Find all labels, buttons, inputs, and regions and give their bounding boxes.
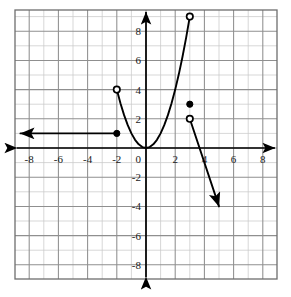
closed-point-constant-ray: [114, 130, 120, 136]
y-tick-label: 8: [136, 25, 142, 37]
y-tick-label: 6: [136, 54, 142, 66]
x-tick-label: -6: [54, 153, 64, 165]
open-point-left-branch: [114, 86, 120, 92]
x-tick-label: -4: [83, 153, 93, 165]
y-tick-label: -2: [132, 171, 141, 183]
x-tick-label: -2: [112, 153, 121, 165]
y-tick-label: 2: [136, 113, 142, 125]
x-tick-label: 2: [172, 153, 178, 165]
graph-screenshot: -8-6-4-2024688642-2-4-6-8: [0, 0, 291, 297]
x-tick-label: 6: [231, 153, 237, 165]
x-tick-label: 8: [260, 153, 266, 165]
origin-label: 0: [136, 153, 142, 165]
closed-point-isolated: [187, 101, 193, 107]
y-tick-label: -6: [132, 230, 142, 242]
open-point-parabola-top: [187, 13, 193, 19]
open-point-ray-start: [187, 116, 193, 122]
y-tick-label: -8: [132, 259, 142, 271]
coordinate-plane-graph: -8-6-4-2024688642-2-4-6-8: [0, 0, 291, 297]
y-tick-label: 4: [136, 84, 142, 96]
y-tick-label: -4: [132, 200, 142, 212]
x-tick-label: -8: [25, 153, 35, 165]
